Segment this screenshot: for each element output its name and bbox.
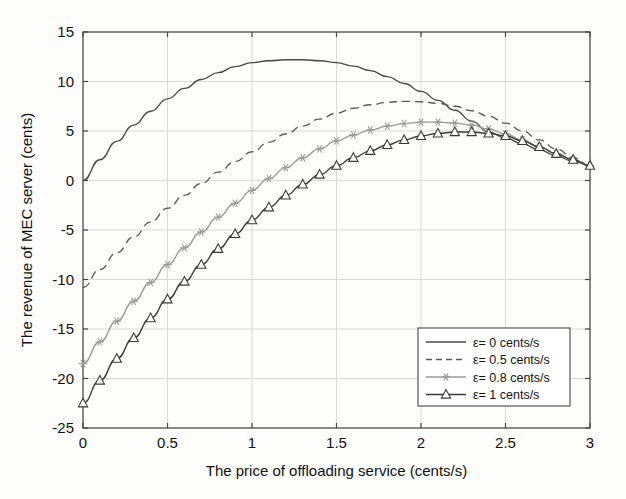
chart-figure: 00.511.522.53151050-5-10-15-20-25 The pr… [0,0,626,499]
x-tick-label: 1.5 [326,434,347,451]
y-tick-label: 5 [66,122,74,139]
y-tick-label: -25 [52,419,74,436]
x-tick-label: 0 [79,434,87,451]
legend-label: ε= 0.8 cents/s [473,371,550,385]
legend-label: ε= 0.5 cents/s [473,353,550,367]
y-tick-label: -10 [52,271,74,288]
y-tick-label: -20 [52,370,74,387]
x-axis-title: The price of offloading service (cents/s… [206,462,468,479]
y-tick-label: 10 [57,73,74,90]
x-tick-label: 3 [586,434,594,451]
legend-label: ε= 0 cents/s [473,336,539,350]
x-tick-label: 2.5 [495,434,516,451]
chart-legend[interactable]: ε= 0 cents/sε= 0.5 cents/sε= 0.8 cents/s… [418,328,570,406]
y-tick-label: -5 [61,221,74,238]
y-tick-label: 15 [57,23,74,40]
legend-label: ε= 1 cents/s [473,388,539,402]
x-tick-label: 2 [417,434,425,451]
y-axis-title: The revenue of MEC server (cents) [18,113,35,347]
chart-background [0,0,626,499]
revenue-vs-price-line-chart: 00.511.522.53151050-5-10-15-20-25 The pr… [0,0,626,499]
x-tick-label: 0.5 [157,434,178,451]
x-tick-label: 1 [248,434,256,451]
y-tick-label: 0 [66,172,74,189]
y-tick-label: -15 [52,320,74,337]
